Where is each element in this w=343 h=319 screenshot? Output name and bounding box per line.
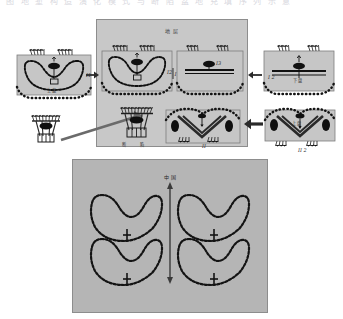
hatch-tufts-center-cluster [121,107,153,113]
panel-center-v-graben: II [164,104,248,150]
hatch-tufts-right-v-bottom [276,141,318,146]
diapir-blob-right [293,63,305,69]
panel-inner-label-left: 上 盘 [47,87,56,93]
arrow-right-to-center-lower [243,118,263,130]
panel-label-I3: I3 [215,60,221,66]
panel-inner-label-right: 下 盘 [293,77,302,84]
shoulder-blob-left [171,120,179,132]
axis-arrowhead-top [167,182,173,189]
panel-left-syncline: I1 上 盘 [16,46,96,104]
figure-caption-strip: 图 地 堑 构 造 演 化 模 式 与 断 陷 盆 地 充 填 序 列 示 意 [0,0,343,13]
panel-center-flat: I3 [176,42,248,104]
hatch-tufts-right-flat [278,45,320,51]
panel-right-flat: I 2 下 盘 [262,42,340,104]
center-cluster-blob [130,117,144,124]
center-blob-v-right [296,114,305,119]
central-block-title: 地 层 [165,27,178,34]
panel-divider-marker: I [170,66,180,82]
shoulder-blob-right [225,120,233,132]
figure-caption: 图 地 堑 构 造 演 化 模 式 与 断 陷 盆 地 充 填 序 列 示 意 [6,0,292,6]
panel-label-right-I2: I 2 [267,74,275,80]
bottom-fold-array: 中 国 [72,159,268,313]
axis-arrowhead-bottom [167,277,173,284]
center-blob-v [198,114,206,118]
panel-label-II: II [201,143,207,149]
svg-text:I: I [174,71,178,77]
panel-label-II2: II 2 [297,147,307,153]
arrow-right-to-center-upper [246,70,262,80]
panel-right-v-graben: 上 盘 II 2 [262,103,342,153]
hatch-tufts-center-left [113,45,155,51]
fold-bottom-right [178,239,249,285]
fold-top-right [178,195,249,241]
shoulder-blob-left-right-panel [270,119,278,131]
arrow-left-to-center [86,70,100,80]
inset-diapir-blob [40,123,53,130]
figure-root: 图 地 堑 构 造 演 化 模 式 与 断 陷 盆 地 充 填 序 列 示 意 … [0,0,343,319]
shoulder-blob-right-right-panel [322,119,330,131]
bottom-axis-label: 中 国 [164,174,176,181]
hatch-tufts-center-right [187,45,229,51]
center-inner-diapir-cluster: 断 陷 [118,104,166,148]
panel-center-syncline: I2 [101,42,177,104]
center-cluster-label-left: 断 [122,141,127,148]
fold-top-left [91,195,162,241]
fold-bottom-left [91,239,162,285]
center-cluster-label-right: 陷 [140,141,144,148]
hatch-tufts-left [30,49,73,55]
panel-inner-label-right-v: 上 盘 [292,120,301,126]
